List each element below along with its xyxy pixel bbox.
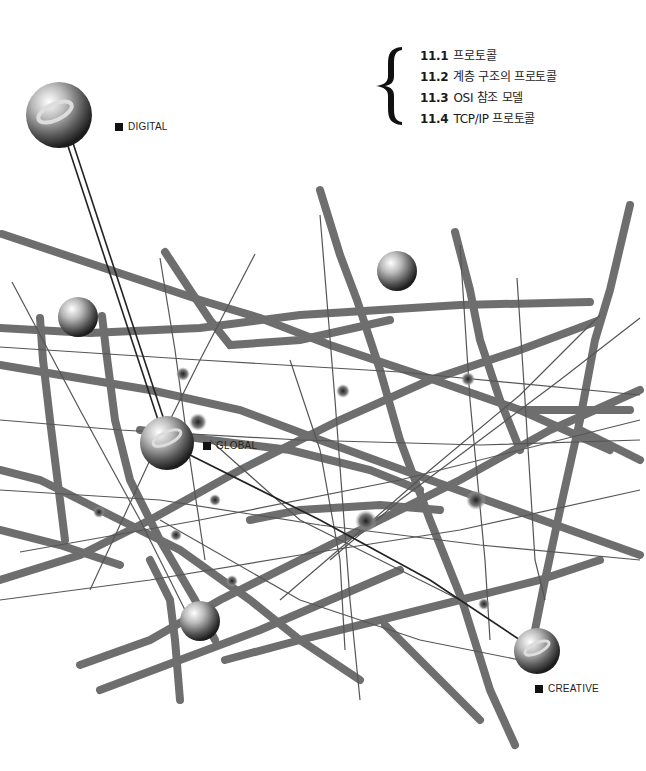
label-text: GLOBAL: [216, 440, 257, 451]
network-illustration: [0, 0, 646, 771]
label-creative: CREATIVE: [535, 683, 599, 694]
square-bullet-icon: [115, 123, 123, 131]
label-text: CREATIVE: [548, 683, 599, 694]
creative-sphere-icon: [514, 628, 560, 674]
label-digital: DIGITAL: [115, 121, 168, 132]
label-text: DIGITAL: [128, 121, 168, 132]
sphere-icon: [377, 251, 417, 291]
square-bullet-icon: [203, 442, 211, 450]
sphere-icon: [180, 601, 220, 641]
label-global: GLOBAL: [203, 440, 257, 451]
digital-sphere-icon: [26, 82, 92, 148]
sphere-icon: [58, 297, 98, 337]
square-bullet-icon: [535, 685, 543, 693]
